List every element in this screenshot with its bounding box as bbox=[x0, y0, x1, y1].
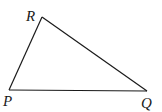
triangle-diagram: R P Q bbox=[0, 0, 162, 112]
vertex-label-q: Q bbox=[141, 95, 152, 111]
side-pr bbox=[9, 17, 42, 90]
vertex-label-p: P bbox=[2, 93, 12, 109]
side-pq bbox=[9, 90, 147, 91]
vertex-label-r: R bbox=[25, 8, 35, 24]
side-rq bbox=[42, 17, 147, 91]
